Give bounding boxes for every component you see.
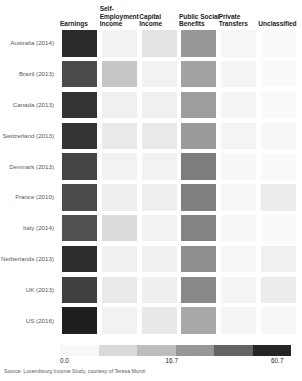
heatmap-cell [62, 184, 97, 210]
heatmap-cell [221, 246, 256, 272]
heatmap-cell [142, 123, 177, 149]
heatmap-cell [142, 92, 177, 118]
heatmap-cell [181, 30, 216, 56]
row-label-3: Switzerland (2013) [2, 132, 54, 139]
colorbar-tick-1: 16.7 [166, 357, 178, 364]
heatmap-cell [62, 215, 97, 241]
column-header-5: Unclassified [258, 20, 302, 28]
row-label-7: Netherlands (2013) [1, 255, 54, 262]
heatmap-cell [62, 61, 97, 87]
heatmap-cell [221, 215, 256, 241]
row-label-9: US (2016) [26, 317, 54, 324]
heatmap-cell [142, 30, 177, 56]
heatmap-cell [142, 277, 177, 303]
heatmap-cell [221, 30, 256, 56]
row-label-2: Canada (2013) [13, 101, 54, 108]
heatmap-cell [221, 123, 256, 149]
heatmap-cell [181, 92, 216, 118]
heatmap-cell [62, 123, 97, 149]
heatmap-cell [261, 92, 296, 118]
heatmap-cell [221, 307, 256, 333]
heatmap-cell [261, 153, 296, 179]
heatmap-cell [181, 215, 216, 241]
heatmap-cell [181, 153, 216, 179]
heatmap-cell [261, 277, 296, 303]
heatmap-cell [62, 153, 97, 179]
heatmap-cell [102, 184, 137, 210]
heatmap-cell [102, 123, 137, 149]
row-label-4: Denmark (2013) [9, 163, 54, 170]
heatmap-cell [261, 30, 296, 56]
row-label-5: France (2010) [15, 193, 54, 200]
heatmap-figure: EarningsSelf- Employment IncomeCapital I… [0, 0, 302, 381]
colorbar-tick-0: 0.0 [60, 357, 69, 364]
column-header-row: EarningsSelf- Employment IncomeCapital I… [60, 2, 298, 28]
heatmap-cell [102, 92, 137, 118]
colorbar-segment-0 [60, 345, 99, 356]
heatmap-cell [62, 246, 97, 272]
heatmap-grid [60, 28, 298, 336]
row-label-6: Italy (2014) [23, 224, 54, 231]
heatmap-cell [261, 307, 296, 333]
heatmap-cell [221, 92, 256, 118]
heatmap-cell [261, 123, 296, 149]
colorbar [60, 345, 291, 356]
colorbar-tick-2: 60.7 [271, 357, 283, 364]
heatmap-cell [142, 184, 177, 210]
heatmap-cell [142, 246, 177, 272]
colorbar-segment-4 [214, 345, 253, 356]
heatmap-cell [102, 307, 137, 333]
heatmap-cell [221, 277, 256, 303]
heatmap-cell [181, 123, 216, 149]
heatmap-cell [102, 30, 137, 56]
heatmap-cell [221, 153, 256, 179]
colorbar-segment-3 [176, 345, 215, 356]
heatmap-cell [142, 307, 177, 333]
heatmap-cell [62, 277, 97, 303]
heatmap-cell [102, 277, 137, 303]
heatmap-cell [142, 215, 177, 241]
heatmap-cell [221, 61, 256, 87]
heatmap-cell [62, 307, 97, 333]
heatmap-cell [142, 153, 177, 179]
heatmap-cell [261, 61, 296, 87]
row-label-8: UK (2013) [26, 286, 54, 293]
heatmap-cell [221, 184, 256, 210]
heatmap-cell [62, 92, 97, 118]
heatmap-cell [261, 215, 296, 241]
heatmap-cell [181, 277, 216, 303]
source-note: Source: Luxembourg Income Study, courtes… [4, 368, 145, 374]
heatmap-cell [261, 184, 296, 210]
colorbar-segment-2 [137, 345, 176, 356]
heatmap-cell [62, 30, 97, 56]
row-label-1: Brazil (2013) [19, 70, 54, 77]
heatmap-cell [261, 246, 296, 272]
row-label-0: Australia (2014) [10, 39, 54, 46]
heatmap-cell [102, 246, 137, 272]
heatmap-cell [181, 61, 216, 87]
heatmap-cell [142, 61, 177, 87]
heatmap-cell [102, 61, 137, 87]
heatmap-cell [181, 246, 216, 272]
heatmap-cell [102, 215, 137, 241]
colorbar-segment-5 [253, 345, 292, 356]
heatmap-cell [102, 153, 137, 179]
colorbar-segment-1 [99, 345, 138, 356]
heatmap-cell [181, 184, 216, 210]
heatmap-cell [181, 307, 216, 333]
